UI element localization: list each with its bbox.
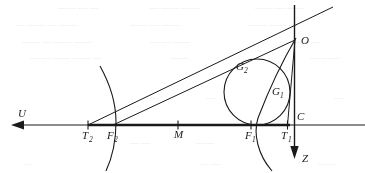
ghost-text: —— <box>317 158 337 168</box>
segment-f2-o <box>113 40 295 125</box>
ghost-text: —— — — <box>57 2 100 12</box>
ghost-text: —— — —— —— <box>21 36 93 46</box>
label-f2-sub: 2 <box>114 135 118 144</box>
label-point-t1: T 1 <box>281 129 292 144</box>
label-t1-sub: 1 <box>288 135 292 144</box>
label-point-o: O <box>301 34 309 46</box>
diagram-canvas: —— — — — —— —— —— — —— — —— — —— —— — ——… <box>0 0 365 173</box>
label-point-m: M <box>173 128 184 140</box>
label-t2-sub: 2 <box>89 135 93 144</box>
ray-t2-through-o <box>88 7 333 125</box>
ghost-text: —— <box>195 137 215 147</box>
geometry-figure: —— — — — —— —— —— — —— — —— — —— —— — ——… <box>0 0 365 173</box>
label-t2-base: T <box>82 129 89 141</box>
ghost-text: — —— — —— <box>15 19 78 29</box>
label-g2-sub: 2 <box>244 66 248 75</box>
label-f2-base: F <box>106 129 114 141</box>
label-f1-base: F <box>244 129 252 141</box>
right-hyperbola-arc <box>256 38 296 171</box>
label-point-c: C <box>297 110 305 122</box>
ghost-text: — — <box>129 137 151 147</box>
label-point-g1: G 1 <box>272 85 284 100</box>
ghost-text: — — —— —— — <box>29 52 103 62</box>
label-point-t2: T 2 <box>82 129 93 144</box>
ghost-text: — <box>205 92 216 102</box>
label-g1-sub: 1 <box>280 91 284 100</box>
ghost-text: — <box>333 92 344 102</box>
ghost-text: —— — —— <box>129 19 181 29</box>
ghost-text: —— — —— <box>254 2 306 12</box>
label-g1-base: G <box>272 85 280 97</box>
label-t1-base: T <box>281 129 288 141</box>
z-axis-arrowhead-icon <box>290 146 298 159</box>
label-z-axis: Z <box>302 152 309 164</box>
ghost-text: — <box>23 158 34 168</box>
label-u-axis: U <box>18 107 27 119</box>
u-axis-arrowhead-icon <box>11 121 24 130</box>
ghost-text: — —— <box>309 52 340 62</box>
label-f1-sub: 1 <box>252 135 256 144</box>
ghost-text: — — —— <box>149 36 192 46</box>
label-point-f1: F 1 <box>244 129 256 144</box>
ghost-text: —— <box>169 52 189 62</box>
label-g2-base: G <box>236 60 244 72</box>
ghost-text: — — <box>199 158 221 168</box>
ghost-text: — —— —— <box>149 2 201 12</box>
